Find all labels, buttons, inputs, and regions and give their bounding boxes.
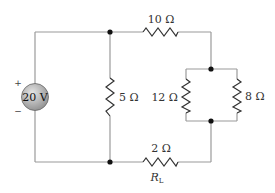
- resistor-load: 2 Ω RL: [143, 142, 178, 185]
- node-top-left: [107, 29, 112, 34]
- node-parallel-top: [208, 66, 213, 71]
- resistor-10-ohm: 10 Ω: [143, 13, 178, 36]
- resistor-zigzag-icon: [182, 79, 190, 113]
- resistor-12-label: 12 Ω: [151, 91, 178, 104]
- circuit-diagram: 20 V + − 5 Ω 10 Ω 12 Ω 8 Ω 2 Ω RL: [0, 0, 275, 193]
- resistor-12-ohm: 12 Ω: [151, 79, 190, 113]
- resistor-2-label: 2 Ω: [151, 142, 171, 155]
- voltage-source: 20 V + −: [14, 78, 49, 116]
- load-name-label: RL: [150, 171, 164, 185]
- resistor-5-label: 5 Ω: [119, 91, 139, 104]
- resistor-zigzag-icon: [143, 28, 178, 36]
- resistor-8-ohm: 8 Ω: [233, 79, 265, 113]
- resistor-zigzag-icon: [143, 158, 178, 166]
- source-plus: +: [14, 78, 22, 88]
- source-minus: −: [14, 106, 22, 116]
- resistor-10-label: 10 Ω: [148, 13, 175, 26]
- resistor-5-ohm: 5 Ω: [106, 78, 139, 116]
- node-bottom-left: [107, 159, 112, 164]
- node-parallel-bottom: [208, 118, 213, 123]
- resistor-8-label: 8 Ω: [245, 90, 265, 103]
- resistor-zigzag-icon: [233, 79, 241, 113]
- resistor-zigzag-icon: [106, 78, 114, 116]
- source-label: 20 V: [22, 91, 48, 104]
